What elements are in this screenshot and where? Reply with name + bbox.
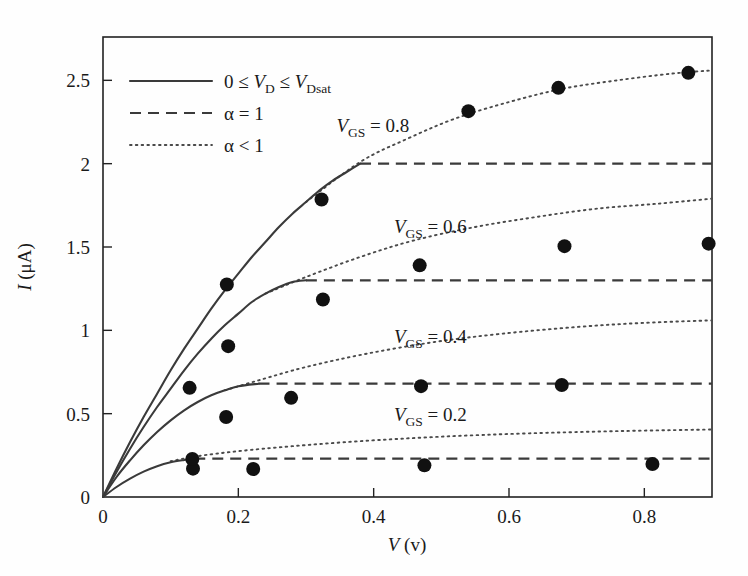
annotation-value: = 0.6 [423,216,467,237]
data-point [185,452,199,466]
iv-characteristic-figure: 00.20.40.60.8 00.511.522.5 VGS = 0.8VGS … [0,0,748,576]
annotation-value: = 0.4 [423,326,467,347]
legend-triode-prefix: 0 ≤ [224,71,253,92]
data-point [461,104,475,118]
data-point [702,237,716,251]
data-point [221,339,235,353]
legend-triode-sub2: Dsat [306,81,331,96]
annotation-value: = 0.8 [365,115,409,136]
annotation-value: = 0.2 [423,404,467,425]
legend-triode-sub1: D [265,81,275,96]
x-tick-label-0.2: 0.2 [226,506,250,527]
y-axis-ticks [103,80,112,413]
data-point [551,81,565,95]
data-point [557,239,571,253]
data-point [681,66,695,80]
data-point [284,391,298,405]
x-axis-unit: (v) [404,534,426,556]
x-axis-title: V (v) [388,534,427,556]
legend: 0 ≤ VD ≤ VDsat α = 1 α < 1 [130,71,331,156]
data-point [417,458,431,472]
legend-label-alpha-eq-1: α = 1 [224,103,264,124]
x-axis-tick-labels: 00.20.40.60.8 [98,506,656,527]
curve-alpha-lt-1-vgs-0.4 [225,320,712,390]
legend-label-triode: 0 ≤ VD ≤ VDsat [224,71,331,96]
curve-annotations-group: VGS = 0.8VGS = 0.6VGS = 0.4VGS = 0.2 [336,115,467,429]
annotation-vgs-02: VGS = 0.2 [394,404,467,429]
curve-alpha-lt-1-vgs-0.8 [306,70,712,202]
legend-label-alpha-lt-1: α < 1 [224,135,264,156]
curve-alpha-lt-1-vgs-0.2 [171,430,712,462]
x-tick-label-0.4: 0.4 [362,506,386,527]
y-axis-title: I (μA) [14,243,36,292]
y-tick-label-1.5: 1.5 [66,237,90,258]
annotation-subscript: GS [406,336,423,351]
legend-triode-mid: ≤ [275,71,295,92]
plot-canvas: 00.20.40.60.8 00.511.522.5 VGS = 0.8VGS … [0,0,748,576]
data-point [219,410,233,424]
data-point [645,457,659,471]
y-tick-label-2: 2 [81,154,91,175]
data-point [414,379,428,393]
y-tick-label-0.5: 0.5 [66,404,90,425]
data-point [316,293,330,307]
annotation-vgs-04: VGS = 0.4 [394,326,467,351]
data-point [183,381,197,395]
data-point [413,258,427,272]
annotation-vgs-08: VGS = 0.8 [336,115,409,140]
x-tick-label-0: 0 [98,506,108,527]
x-axis-ticks [238,488,644,497]
data-point [220,278,234,292]
annotation-subscript: GS [406,226,423,241]
data-point [246,462,260,476]
y-tick-label-0: 0 [81,487,91,508]
y-tick-label-1: 1 [81,320,91,341]
y-axis-tick-labels: 00.511.522.5 [66,70,90,508]
y-tick-label-2.5: 2.5 [66,70,90,91]
annotation-subscript: GS [406,414,423,429]
annotation-subscript: GS [348,125,365,140]
x-tick-label-0.6: 0.6 [497,506,521,527]
data-point [555,378,569,392]
y-axis-unit: (μA) [14,243,36,280]
x-tick-label-0.8: 0.8 [632,506,656,527]
curve-triode-vgs-0.6 [103,280,306,497]
data-point [315,193,329,207]
